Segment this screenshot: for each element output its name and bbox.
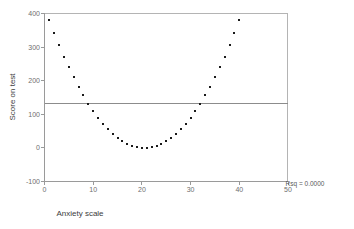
x-axis: 0 10 20 30 40 50 Anxiety scale [43,182,292,219]
data-point [194,110,196,112]
data-point [112,133,114,135]
y-tick-label-300: 300 [28,44,40,51]
x-tick-label-20: 20 [138,186,146,193]
data-point [126,143,128,145]
y-tick-label-200: 200 [28,77,40,84]
data-point [199,103,201,105]
y-axis: 400 300 200 100 0 -100 Score on test [8,10,45,185]
data-point [141,147,143,149]
y-tick-label-400: 400 [28,10,40,17]
data-point [180,128,182,130]
data-point [121,140,123,142]
data-point [209,86,211,88]
y-tick-label-neg100: -100 [26,178,40,185]
data-point [73,76,75,78]
data-point [224,56,226,58]
data-point [131,145,133,147]
data-point [82,94,84,96]
data-point [160,143,162,145]
data-point [219,66,221,68]
data-point [151,146,153,148]
y-tick-label-0: 0 [36,144,40,151]
data-point [165,140,167,142]
x-tick-label-40: 40 [235,186,243,193]
data-point [233,32,235,34]
y-axis-title: Score on test [8,73,17,121]
data-point [156,145,158,147]
data-point [204,94,206,96]
data-point [107,128,109,130]
data-point [229,44,231,46]
x-axis-title: Anxiety scale [56,209,104,218]
x-tick-label-30: 30 [187,186,195,193]
data-point [68,66,70,68]
data-point [185,123,187,125]
x-tick-label-50: 50 [284,186,292,193]
data-point [78,86,80,88]
y-tick-label-100: 100 [28,111,40,118]
data-point [97,117,99,119]
data-point [190,117,192,119]
data-point [53,32,55,34]
data-point [63,56,65,58]
data-point [136,146,138,148]
data-point [238,19,240,21]
data-point [87,103,89,105]
data-points-layer [48,19,240,149]
scatter-chart: 400 300 200 100 0 -100 Score on test 0 1… [0,0,354,229]
rsq-annotation: Rsq = 0.0000 [286,180,325,188]
x-tick-label-0: 0 [43,186,47,193]
data-point [175,133,177,135]
data-point [117,137,119,139]
chart-canvas: 400 300 200 100 0 -100 Score on test 0 1… [0,0,354,229]
data-point [170,137,172,139]
data-point [146,147,148,149]
data-point [48,19,50,21]
plot-frame [44,14,288,182]
x-tick-label-10: 10 [89,186,97,193]
data-point [92,110,94,112]
data-point [214,76,216,78]
data-point [102,123,104,125]
data-point [58,44,60,46]
